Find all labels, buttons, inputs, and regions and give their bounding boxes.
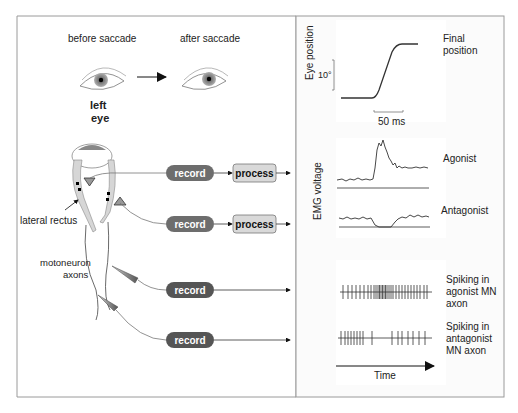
final-position-label-2: position xyxy=(443,45,477,56)
record-label-1: record xyxy=(174,168,205,179)
antagonist-spike-label-1: Spiking in xyxy=(446,321,489,332)
final-position-label-1: Final xyxy=(443,33,465,44)
process-label-2: process xyxy=(235,219,274,230)
emg-axis-label: EMG voltage xyxy=(312,162,323,220)
time-label: Time xyxy=(374,370,396,381)
agonist-spike-label-1: Spiking in xyxy=(446,274,489,285)
record-label-2: record xyxy=(174,219,205,230)
antagonist-label: Antagonist xyxy=(441,205,488,216)
antagonist-spike-label-3: MN axon xyxy=(446,345,486,356)
before-saccade-label: before saccade xyxy=(68,33,137,44)
after-saccade-label: after saccade xyxy=(180,33,240,44)
motoneuron-label-1: motoneuron xyxy=(40,257,91,268)
left-eye-label-1: left xyxy=(90,99,107,111)
eye-position-axis-label: Eye position xyxy=(304,26,315,80)
left-eye-label-2: eye xyxy=(91,112,109,124)
antagonist-spike-label-2: antagonist xyxy=(446,333,492,344)
process-label-1: process xyxy=(235,168,274,179)
agonist-label: Agonist xyxy=(443,153,477,164)
eye-position-scale-label: 10° xyxy=(318,70,332,80)
motoneuron-label-2: axons xyxy=(63,269,89,280)
agonist-spike-label-2: agonist MN xyxy=(446,286,497,297)
time-scale-label: 50 ms xyxy=(378,116,405,127)
lateral-rectus-label: lateral rectus xyxy=(20,215,77,226)
agonist-spike-label-3: axon xyxy=(446,298,468,309)
record-label-4: record xyxy=(174,335,205,346)
diagram-canvas: before saccade after saccade left eye la… xyxy=(0,0,518,413)
record-label-3: record xyxy=(174,285,205,296)
